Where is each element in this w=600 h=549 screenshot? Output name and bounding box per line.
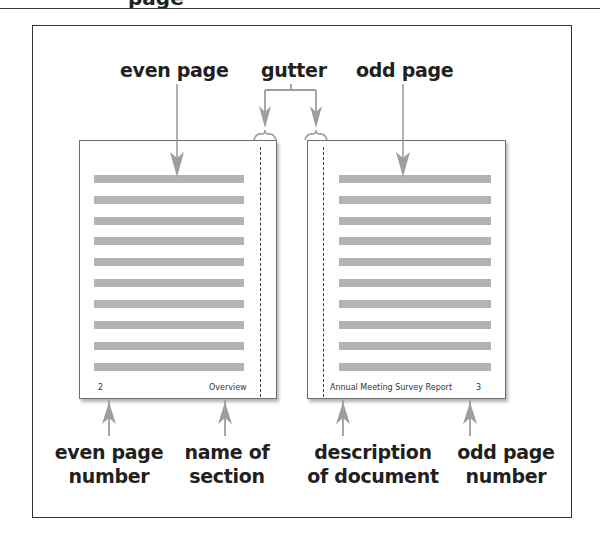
label-odd-page-number-line2: number <box>448 464 564 488</box>
label-even-page-number: even page number <box>44 440 174 488</box>
even-page-number-arrow-icon <box>102 400 116 436</box>
label-name-of-section-line1: name of <box>172 440 282 464</box>
gutter-brace-left-icon <box>254 130 276 140</box>
label-odd-page-number-line1: odd page <box>448 440 564 464</box>
gutter-brace-right-icon <box>305 130 327 140</box>
label-even-page-number-line2: number <box>44 464 174 488</box>
description-arrow-icon <box>336 400 350 436</box>
label-odd-page-number: odd page number <box>448 440 564 488</box>
label-even-page-number-line1: even page <box>44 440 174 464</box>
odd-page-number-arrow-icon <box>463 400 477 436</box>
odd-page-arrow-icon <box>396 84 410 177</box>
label-name-of-section: name of section <box>172 440 282 488</box>
label-description-of-document: description of document <box>298 440 448 488</box>
label-description-line2: of document <box>298 464 448 488</box>
label-description-line1: description <box>298 440 448 464</box>
gutter-bracket-arrows-icon <box>259 84 322 128</box>
even-page-arrow-icon <box>170 84 184 177</box>
label-name-of-section-line2: section <box>172 464 282 488</box>
section-name-arrow-icon <box>218 400 232 436</box>
